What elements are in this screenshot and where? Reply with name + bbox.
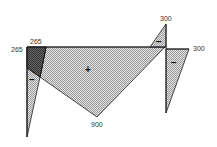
label-right-end: 300 [193, 45, 205, 52]
label-bottom-peak: 900 [91, 121, 103, 128]
right-negative-triangle [166, 49, 189, 113]
moment-diagram: 265 265 900 300 300 + − − − [0, 0, 217, 147]
plus-sign: + [85, 64, 91, 75]
minus-sign-top: − [156, 36, 162, 47]
label-left-side: 265 [11, 46, 23, 53]
minus-sign-right: − [171, 57, 177, 68]
positive-moment-region [40, 47, 165, 117]
label-top-right-peak: 300 [160, 15, 172, 22]
minus-sign-left: − [29, 74, 35, 85]
label-left-top: 265 [30, 38, 42, 45]
